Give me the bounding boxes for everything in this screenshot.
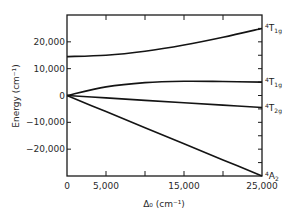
y-axis-ticks: 20,00010,0000−10,000−20,000	[26, 28, 262, 162]
y-tick-label: −10,000	[26, 117, 65, 127]
x-axis-ticks: 05,00015,00025,000	[64, 15, 278, 191]
term-labels: 4T1g4T1g4T2g4A2	[265, 22, 282, 182]
series-lines	[67, 28, 262, 176]
x-tick-label: 25,000	[246, 181, 278, 191]
term-label: 4T1g	[265, 22, 282, 35]
y-tick-label: 10,000	[34, 64, 66, 74]
x-tick-label: 5,000	[93, 181, 119, 191]
series-line	[67, 28, 262, 56]
term-label: 4T1g	[265, 76, 282, 89]
series-line	[67, 81, 262, 95]
series-line	[67, 96, 262, 177]
x-tick-label: 15,000	[168, 181, 200, 191]
tanabe-sugano-chart: 05,00015,00025,000 20,00010,0000−10,000−…	[0, 0, 296, 218]
plot-border	[67, 15, 262, 176]
y-axis-label: Energy (cm⁻¹)	[11, 64, 21, 127]
y-tick-label: 20,000	[34, 37, 66, 47]
y-tick-label: 0	[59, 91, 65, 101]
y-tick-label: −20,000	[26, 144, 65, 154]
x-axis-label: Δ₀ (cm⁻¹)	[143, 199, 185, 209]
x-tick-label: 0	[64, 181, 70, 191]
series-line	[67, 96, 262, 108]
term-label: 4T2g	[265, 102, 282, 115]
plot-frame	[67, 15, 262, 176]
